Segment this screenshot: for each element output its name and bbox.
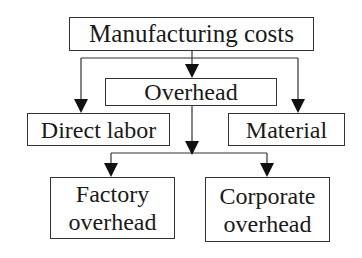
node-label-line1: Corporate [220,182,316,210]
arrow-to-factory-overhead [104,163,118,177]
arrow-to-material [291,99,305,113]
node-label-line2: overhead [69,208,157,236]
node-label: Material [246,116,327,144]
node-overhead: Overhead [105,78,277,106]
node-corporate-overhead: Corporate overhead [205,177,330,242]
node-factory-overhead: Factory overhead [50,177,175,239]
node-label: Direct labor [41,116,156,144]
node-label: Overhead [144,78,237,106]
arrow-to-overhead [185,64,199,78]
node-label-line2: overhead [224,210,312,238]
node-material: Material [228,113,345,146]
node-label-line1: Factory [76,180,149,208]
arrow-to-direct-labor [74,99,88,113]
node-manufacturing-costs: Manufacturing costs [69,17,314,51]
node-direct-labor: Direct labor [27,113,170,146]
arrow-to-corporate-overhead [260,163,274,177]
node-label: Manufacturing costs [89,20,294,48]
